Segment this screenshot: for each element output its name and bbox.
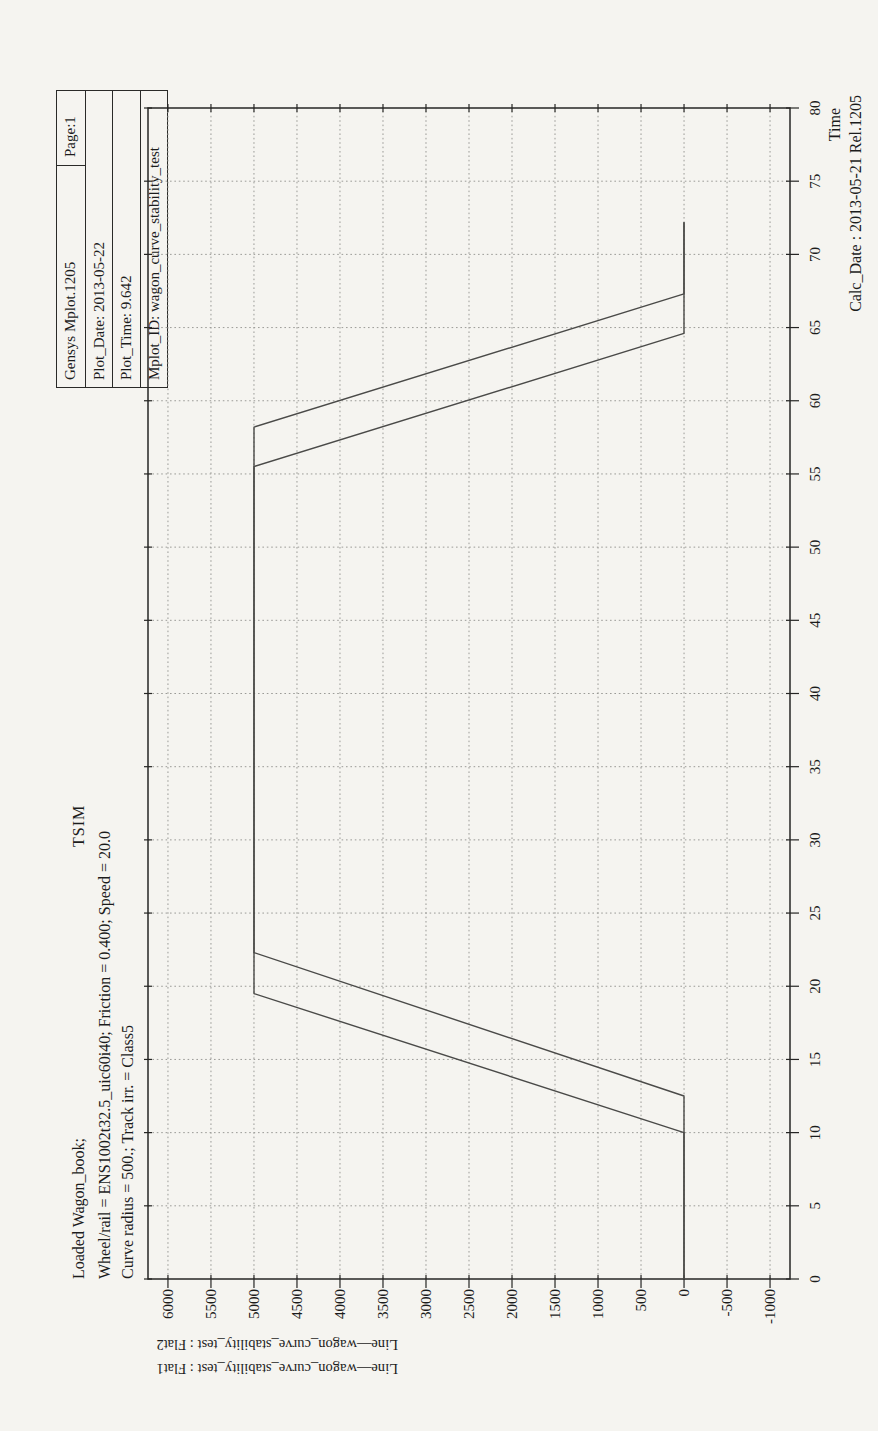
scanned-page: Gensys Mplot.1205 Page:1 Plot_Date: 2013… [0, 0, 878, 1431]
svg-text:2500: 2500 [461, 1289, 477, 1319]
svg-text:70: 70 [807, 247, 823, 262]
svg-text:1000: 1000 [590, 1289, 606, 1319]
svg-text:75: 75 [807, 174, 823, 189]
svg-text:5000: 5000 [246, 1289, 262, 1319]
time-tick-labels: 05101520253035404550556065707580 [807, 101, 823, 1283]
x-axis-title: Time [826, 108, 844, 141]
svg-text:25: 25 [807, 906, 823, 921]
svg-text:15: 15 [807, 1052, 823, 1067]
svg-text:35: 35 [807, 759, 823, 774]
svg-text:4500: 4500 [289, 1289, 305, 1319]
svg-text:80: 80 [807, 101, 823, 116]
svg-text:5: 5 [807, 1202, 823, 1210]
svg-text:3000: 3000 [418, 1289, 434, 1319]
value-tick-labels: 6000550050004500400035003000250020001500… [160, 1289, 778, 1324]
svg-text:0: 0 [676, 1289, 692, 1297]
svg-text:40: 40 [807, 686, 823, 701]
svg-text:0: 0 [807, 1275, 823, 1283]
calc-date: Calc_Date : 2013-05-21 Rel.1205 [847, 95, 865, 312]
svg-text:6000: 6000 [160, 1289, 176, 1319]
svg-text:30: 30 [807, 832, 823, 847]
svg-text:20: 20 [807, 979, 823, 994]
plot-sheet: Gensys Mplot.1205 Page:1 Plot_Date: 2013… [0, 0, 878, 1431]
chart-svg: 0510152025303540455055606570758060005500… [0, 0, 878, 1431]
svg-text:2000: 2000 [504, 1289, 520, 1319]
svg-text:3500: 3500 [375, 1289, 391, 1319]
svg-text:-1000: -1000 [762, 1289, 778, 1324]
svg-text:50: 50 [807, 540, 823, 555]
svg-text:-500: -500 [719, 1289, 735, 1317]
svg-text:500: 500 [633, 1289, 649, 1312]
svg-text:5500: 5500 [203, 1289, 219, 1319]
svg-text:45: 45 [807, 613, 823, 628]
tick-marks [144, 104, 799, 1288]
svg-text:1500: 1500 [547, 1289, 563, 1319]
svg-text:65: 65 [807, 320, 823, 335]
svg-text:4000: 4000 [332, 1289, 348, 1319]
svg-text:10: 10 [807, 1125, 823, 1140]
svg-text:60: 60 [807, 393, 823, 408]
svg-text:55: 55 [807, 466, 823, 481]
